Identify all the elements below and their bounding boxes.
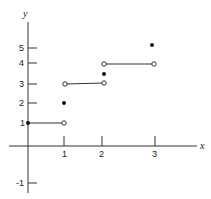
closed-point-2-3.5 <box>102 72 106 76</box>
x-ticks <box>64 136 155 146</box>
open-point-1-1 <box>62 121 66 125</box>
y-tick-label-neg1: -1 <box>16 178 24 188</box>
x-tick-label-3: 3 <box>152 149 157 159</box>
closed-point-3-5 <box>150 43 154 47</box>
segment-y3 <box>65 83 104 84</box>
y-tick-label-1: 1 <box>20 118 25 128</box>
open-point-2-4 <box>102 62 106 66</box>
y-tick-label-3: 3 <box>19 79 24 89</box>
closed-point-1-2 <box>62 101 66 105</box>
open-endpoints <box>62 62 156 125</box>
y-ticks <box>28 48 37 183</box>
closed-point-0-1 <box>26 121 30 125</box>
closed-points <box>26 43 154 125</box>
open-point-3-4 <box>152 62 156 66</box>
y-axis-label: y <box>22 8 28 19</box>
step-function-plot: y x 1 2 3 5 4 3 2 1 -1 <box>0 0 211 199</box>
y-tick-label-2: 2 <box>19 98 24 108</box>
step-segments <box>28 64 154 123</box>
y-tick-label-4: 4 <box>19 58 24 68</box>
open-point-2-3 <box>102 81 106 85</box>
x-tick-label-1: 1 <box>62 149 67 159</box>
open-point-1-3 <box>63 82 67 86</box>
y-tick-label-5: 5 <box>19 43 24 53</box>
x-tick-label-2: 2 <box>99 149 104 159</box>
x-axis-label: x <box>199 140 205 151</box>
